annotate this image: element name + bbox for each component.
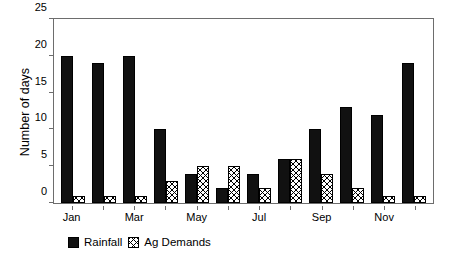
x-tick-mark: [290, 206, 291, 210]
y-tick-label: 20: [35, 38, 54, 50]
legend-swatch-rainfall: [68, 237, 79, 248]
x-tick: [150, 206, 181, 224]
bar-group: [88, 19, 119, 203]
bar-group: [275, 19, 306, 203]
x-tick-mark: [259, 206, 260, 210]
bar-group: [57, 19, 88, 203]
legend-label: Ag Demands: [144, 236, 210, 248]
legend-item: Ag Demands: [128, 236, 210, 248]
bar-rainfall: [123, 56, 135, 203]
x-tick-label: Sep: [306, 211, 337, 223]
x-tick: Sep: [306, 206, 337, 224]
y-tick-label: 0: [41, 185, 54, 197]
x-tick-mark: [322, 206, 323, 210]
bar-ag-demands: [414, 196, 426, 203]
x-tick-mark: [415, 206, 416, 210]
bar-rainfall: [278, 159, 290, 203]
bar-rainfall: [216, 188, 228, 203]
x-tick-mark: [353, 206, 354, 210]
bar-group: [181, 19, 212, 203]
bar-chart-figure: Number of days 0510152025 JanMarMayJulSe…: [0, 0, 450, 261]
bar-ag-demands: [166, 181, 178, 203]
bar-ag-demands: [259, 188, 271, 203]
bar-rainfall: [371, 115, 383, 203]
bar-group: [243, 19, 274, 203]
bar-rainfall: [154, 129, 166, 203]
bar-group: [119, 19, 150, 203]
x-tick: [337, 206, 368, 224]
x-tick-mark: [384, 206, 385, 210]
x-tick-label: May: [181, 211, 212, 223]
y-tick-label: 15: [35, 75, 54, 87]
bar-ag-demands: [197, 166, 209, 203]
bar-group: [212, 19, 243, 203]
bar-rainfall: [92, 63, 104, 203]
legend-label: Rainfall: [84, 236, 122, 248]
x-tick-label: Nov: [369, 211, 400, 223]
bar-group: [150, 19, 181, 203]
x-tick-label: Jan: [56, 211, 87, 223]
legend-swatch-ag-demands: [128, 237, 139, 248]
x-tick: [400, 206, 431, 224]
x-tick: [87, 206, 118, 224]
x-tick-mark: [165, 206, 166, 210]
bar-ag-demands: [383, 196, 395, 203]
y-tick-label: 25: [35, 1, 54, 13]
y-tick-label: 10: [35, 111, 54, 123]
bar-ag-demands: [104, 196, 116, 203]
bar-group: [306, 19, 337, 203]
bar-rainfall: [185, 174, 197, 203]
x-tick-label: Mar: [119, 211, 150, 223]
bar-rainfall: [247, 174, 259, 203]
bar-ag-demands: [352, 188, 364, 203]
y-tick-label: 5: [41, 148, 54, 160]
x-tick-mark: [197, 206, 198, 210]
chart-legend: RainfallAg Demands: [53, 236, 434, 248]
bar-ag-demands: [73, 196, 85, 203]
x-tick-mark: [72, 206, 73, 210]
x-tick: Nov: [369, 206, 400, 224]
bar-ag-demands: [228, 166, 240, 203]
x-axis-ticks: JanMarMayJulSepNov: [53, 206, 434, 224]
x-tick-label: Jul: [244, 211, 275, 223]
x-tick-mark: [228, 206, 229, 210]
bar-group: [337, 19, 368, 203]
plot-area: 0510152025: [53, 18, 434, 204]
bar-rainfall: [309, 129, 321, 203]
x-tick: [275, 206, 306, 224]
x-tick-mark: [134, 206, 135, 210]
x-tick-mark: [103, 206, 104, 210]
bar-group: [399, 19, 430, 203]
bar-groups: [54, 19, 433, 203]
x-tick: [212, 206, 243, 224]
bar-ag-demands: [135, 196, 147, 203]
x-tick: May: [181, 206, 212, 224]
y-axis-title: Number of days: [18, 42, 32, 182]
bar-rainfall: [402, 63, 414, 203]
x-tick: Jan: [56, 206, 87, 224]
bar-rainfall: [61, 56, 73, 203]
bar-ag-demands: [321, 174, 333, 203]
x-tick: Jul: [244, 206, 275, 224]
x-tick: Mar: [119, 206, 150, 224]
bar-ag-demands: [290, 159, 302, 203]
bar-rainfall: [340, 107, 352, 203]
legend-item: Rainfall: [68, 236, 122, 248]
bar-group: [368, 19, 399, 203]
